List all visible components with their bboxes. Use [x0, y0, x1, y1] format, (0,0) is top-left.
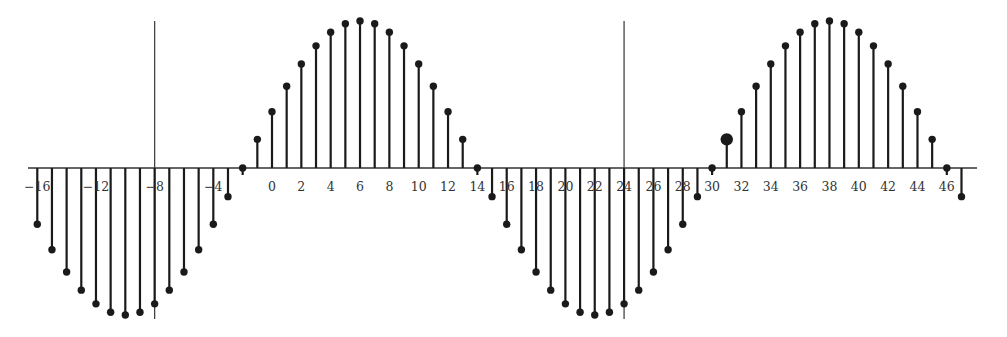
x-tick-label: 32 — [733, 179, 749, 194]
sample-marker — [327, 28, 334, 35]
stem — [958, 168, 965, 200]
sample-marker — [650, 268, 657, 275]
sample-marker — [855, 28, 862, 35]
sample-marker — [899, 83, 906, 90]
x-tick-label: 36 — [792, 179, 808, 194]
stem — [268, 108, 275, 168]
stem — [210, 168, 217, 228]
stem — [576, 168, 583, 316]
sample-marker — [591, 311, 598, 318]
x-tick-label: 24 — [616, 179, 632, 194]
sample-marker — [283, 83, 290, 90]
sample-marker — [371, 20, 378, 27]
stem — [606, 168, 613, 316]
stem — [180, 168, 187, 276]
stem — [122, 168, 129, 319]
stem — [679, 168, 686, 228]
stem-plot: −16−12−8−4024681012141618202224262830323… — [0, 0, 1007, 337]
x-tick-label: 12 — [440, 179, 456, 194]
x-tick-label: 8 — [385, 179, 393, 194]
x-tick-label: 40 — [851, 179, 867, 194]
x-tick-label: 38 — [822, 179, 838, 194]
sample-marker — [268, 108, 275, 115]
stem — [547, 168, 554, 294]
sample-marker — [606, 309, 613, 316]
stem — [928, 136, 935, 168]
stem — [474, 164, 481, 175]
sample-marker — [78, 286, 85, 293]
stem — [195, 168, 202, 253]
sample-marker — [298, 60, 305, 67]
x-tick-label: 30 — [704, 179, 720, 194]
sample-marker — [444, 108, 451, 115]
stem — [312, 42, 319, 168]
sample-marker — [576, 309, 583, 316]
x-tick-label: 26 — [645, 179, 661, 194]
stem — [415, 60, 422, 168]
sample-marker — [195, 246, 202, 253]
sample-marker — [518, 246, 525, 253]
sample-marker — [811, 20, 818, 27]
sample-marker — [342, 20, 349, 27]
sample-marker — [224, 193, 231, 200]
x-tick-label: −16 — [24, 179, 50, 194]
stem — [914, 108, 921, 168]
x-tick-label: 34 — [763, 179, 779, 194]
x-tick-label: −12 — [83, 179, 109, 194]
x-tick-label: 10 — [411, 179, 427, 194]
sample-marker — [928, 136, 935, 143]
sample-marker — [664, 246, 671, 253]
stem — [721, 133, 733, 168]
stem — [239, 164, 246, 175]
stem — [444, 108, 451, 168]
sample-marker — [180, 268, 187, 275]
sample-marker — [136, 309, 143, 316]
stem — [708, 164, 715, 175]
x-tick-label: 4 — [327, 179, 335, 194]
sample-marker — [708, 164, 715, 171]
stem — [518, 168, 525, 253]
x-tick-label: 28 — [675, 179, 691, 194]
sample-marker — [620, 300, 627, 307]
sample-marker — [840, 20, 847, 27]
stem — [298, 60, 305, 168]
stem — [356, 17, 363, 168]
stem — [855, 28, 862, 168]
x-tick-label: 16 — [499, 179, 515, 194]
stem — [840, 20, 847, 168]
x-tick-label: −8 — [145, 179, 163, 194]
stem — [767, 60, 774, 168]
sample-marker — [738, 108, 745, 115]
sample-marker — [694, 193, 701, 200]
sample-marker — [943, 164, 950, 171]
sample-marker — [122, 311, 129, 318]
sample-marker — [430, 83, 437, 90]
sample-marker — [796, 28, 803, 35]
sample-marker — [752, 83, 759, 90]
x-tick-label: 0 — [268, 179, 276, 194]
sample-marker — [884, 60, 891, 67]
sample-marker — [48, 246, 55, 253]
stem — [371, 20, 378, 168]
stem — [635, 168, 642, 294]
highlighted-sample-marker — [721, 133, 733, 145]
sample-marker — [356, 17, 363, 24]
sample-marker — [562, 300, 569, 307]
stem — [664, 168, 671, 253]
sample-marker — [958, 193, 965, 200]
sample-marker — [532, 268, 539, 275]
stem — [694, 168, 701, 200]
x-tick-label: −4 — [204, 179, 222, 194]
sample-marker — [488, 193, 495, 200]
sample-marker — [312, 42, 319, 49]
sample-marker — [767, 60, 774, 67]
stem — [752, 83, 759, 168]
x-tick-label: 6 — [356, 179, 364, 194]
x-tick-label: 2 — [297, 179, 305, 194]
sample-marker — [166, 286, 173, 293]
x-tick-label: 22 — [587, 179, 603, 194]
x-tick-label: 20 — [557, 179, 573, 194]
sample-marker — [386, 28, 393, 35]
stem — [503, 168, 510, 228]
stem — [826, 17, 833, 168]
